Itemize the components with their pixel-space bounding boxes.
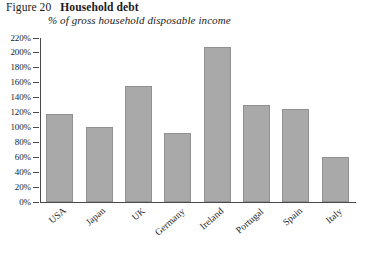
y-axis-tick-mark xyxy=(33,172,39,173)
y-axis-tick-mark xyxy=(33,157,39,158)
y-axis-tick-label: 40% xyxy=(2,167,31,176)
y-axis-tick-mark xyxy=(33,52,39,53)
x-axis-label-ireland: Ireland xyxy=(198,206,225,232)
bar-germany xyxy=(164,133,191,202)
title-block: Figure 20 Household debt % of gross hous… xyxy=(6,1,362,26)
y-axis-tick-mark xyxy=(33,82,39,83)
y-axis-tick-label: 140% xyxy=(2,93,31,102)
x-axis-label-italy: Italy xyxy=(324,206,344,225)
bar-japan xyxy=(86,127,113,202)
x-axis-label-portugal: Portugal xyxy=(234,206,265,235)
x-axis-label-uk: UK xyxy=(130,206,147,223)
figure-number: Figure 20 xyxy=(6,1,51,13)
y-axis-tick-mark xyxy=(33,112,39,113)
y-axis-tick-label: 60% xyxy=(2,152,31,161)
y-axis-tick-label: 200% xyxy=(2,48,31,57)
bar-italy xyxy=(322,157,349,202)
page-title: Household debt xyxy=(60,1,138,13)
y-axis-tick-label: 0% xyxy=(2,197,31,206)
y-axis-tick-mark xyxy=(33,202,39,203)
x-axis-line xyxy=(40,202,356,203)
x-axis-label-germany: Germany xyxy=(153,206,187,237)
y-axis-tick-mark xyxy=(33,127,39,128)
x-axis-label-usa: USA xyxy=(47,206,68,226)
x-axis-label-japan: Japan xyxy=(84,206,107,228)
figure-heading: Figure 20 Household debt xyxy=(6,1,362,13)
y-axis-tick-label: 120% xyxy=(2,108,31,117)
x-axis-label-spain: Spain xyxy=(281,206,304,228)
bar-uk xyxy=(125,86,152,202)
y-axis-tick-mark xyxy=(33,38,39,39)
y-axis-tick-label: 100% xyxy=(2,122,31,131)
y-axis-tick-mark xyxy=(33,187,39,188)
y-axis-tick-mark xyxy=(33,97,39,98)
y-axis-tick-mark xyxy=(33,67,39,68)
plot-area xyxy=(40,38,355,202)
y-axis-tick-label: 180% xyxy=(2,63,31,72)
chart-subtitle: % of gross household disposable income xyxy=(48,14,362,26)
bar-ireland xyxy=(204,47,231,202)
y-axis-tick-label: 160% xyxy=(2,78,31,87)
bar-spain xyxy=(282,109,309,202)
y-axis-tick-label: 220% xyxy=(2,33,31,42)
y-axis-tick-label: 80% xyxy=(2,137,31,146)
bar-usa xyxy=(46,114,73,202)
bar-portugal xyxy=(243,105,270,202)
y-axis-tick-label: 20% xyxy=(2,182,31,191)
y-axis-tick-mark xyxy=(33,142,39,143)
